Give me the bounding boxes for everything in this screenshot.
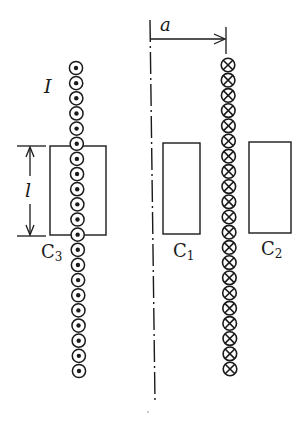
- dot-in-circle-icon: [72, 364, 85, 377]
- loop-c1-label: C1: [173, 240, 194, 263]
- cross-in-circle-icon: [223, 347, 237, 361]
- dot-in-circle-icon: [71, 243, 84, 256]
- cross-in-circle-icon: [223, 286, 237, 300]
- dot-in-circle-icon: [70, 77, 83, 90]
- cross-in-circle-icon: [222, 165, 236, 179]
- cross-in-circle-icon: [222, 180, 236, 194]
- cross-in-circle-icon: [222, 149, 236, 163]
- physics-diagram: a I l C3 C1 C2: [0, 0, 307, 421]
- cross-in-circle-icon: [223, 256, 237, 270]
- cross-in-circle-icon: [222, 119, 236, 133]
- dot-in-circle-icon: [71, 183, 84, 196]
- dot-in-circle-icon: [70, 167, 83, 180]
- speck: [147, 411, 149, 413]
- dot-in-circle-icon: [70, 152, 83, 165]
- loop-c1: [163, 143, 200, 234]
- cross-in-circle-icon: [222, 104, 236, 118]
- distance-label: a: [160, 14, 171, 35]
- dot-in-circle-icon: [70, 92, 83, 105]
- cross-in-circle-icon: [223, 362, 237, 376]
- dot-in-circle-icon: [71, 228, 84, 241]
- cross-in-circle-icon: [222, 225, 236, 239]
- cross-in-circle-icon: [221, 58, 235, 72]
- cross-in-circle-icon: [223, 301, 237, 315]
- current-sheet-into-page: [221, 58, 237, 376]
- current-sheet-out-of-page: [69, 61, 85, 377]
- cross-in-circle-icon: [221, 89, 235, 103]
- cross-in-circle-icon: [221, 73, 235, 87]
- dot-in-circle-icon: [71, 258, 84, 271]
- cross-in-circle-icon: [223, 332, 237, 346]
- current-label: I: [43, 75, 52, 97]
- dot-in-circle-icon: [72, 334, 85, 347]
- dot-in-circle-icon: [70, 137, 83, 150]
- cross-in-circle-icon: [222, 210, 236, 224]
- cross-in-circle-icon: [223, 317, 237, 331]
- cross-in-circle-icon: [222, 134, 236, 148]
- length-l-dimension: l: [17, 146, 46, 236]
- dot-in-circle-icon: [72, 289, 85, 302]
- dot-in-circle-icon: [69, 61, 82, 74]
- symmetry-axis: [150, 20, 155, 402]
- cross-in-circle-icon: [222, 195, 236, 209]
- loop-c3-label: C3: [41, 241, 62, 264]
- dot-in-circle-icon: [70, 122, 83, 135]
- loop-c2-label: C2: [261, 238, 282, 261]
- dot-in-circle-icon: [71, 198, 84, 211]
- length-label: l: [25, 179, 31, 201]
- dot-in-circle-icon: [70, 107, 83, 120]
- dot-in-circle-icon: [71, 213, 84, 226]
- cross-in-circle-icon: [223, 271, 237, 285]
- loop-c2: [249, 142, 291, 233]
- dot-in-circle-icon: [72, 319, 85, 332]
- dot-in-circle-icon: [72, 349, 85, 362]
- cross-in-circle-icon: [222, 241, 236, 255]
- dot-in-circle-icon: [72, 274, 85, 287]
- distance-a-dimension: a: [151, 14, 226, 54]
- dot-in-circle-icon: [72, 304, 85, 317]
